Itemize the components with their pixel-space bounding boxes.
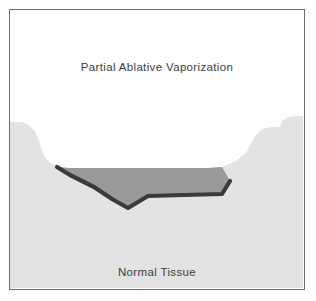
vaporization-label: Partial Ablative Vaporization [10, 61, 304, 73]
figure-root: Partial Ablative Vaporization Normal Tis… [0, 0, 316, 301]
figure-frame-border: Partial Ablative Vaporization Normal Tis… [9, 9, 305, 290]
ablation-cross-section-diagram [10, 10, 303, 288]
normal-tissue-label: Normal Tissue [10, 266, 304, 278]
